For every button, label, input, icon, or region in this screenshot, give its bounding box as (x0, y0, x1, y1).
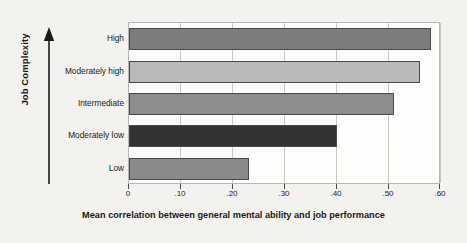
x-axis-tick-group: 0.10.20.30.40.50.60 (128, 184, 440, 200)
bar (129, 158, 249, 180)
x-axis-tick-label: .60 (434, 189, 445, 198)
bar (129, 93, 394, 115)
x-axis-tick-label: .40 (330, 189, 341, 198)
bar (129, 28, 431, 50)
category-label: High (58, 33, 124, 43)
x-axis-tick-label: 0 (126, 189, 130, 198)
x-axis-tick-label: .10 (174, 189, 185, 198)
y-axis-title: Job Complexity (19, 10, 30, 130)
x-axis-tick-label: .50 (382, 189, 393, 198)
bar-row (129, 93, 394, 115)
category-label: Moderately low (58, 130, 124, 140)
plot-area (128, 22, 440, 184)
x-axis-title: Mean correlation between general mental … (0, 210, 467, 220)
bar-row (129, 61, 420, 83)
category-label: Intermediate (58, 98, 124, 108)
gridline (440, 23, 441, 183)
x-axis-tick-label: .20 (226, 189, 237, 198)
category-label-group: HighModerately highIntermediateModeratel… (58, 22, 124, 184)
bar-row (129, 28, 431, 50)
bar-row (129, 125, 337, 147)
bar (129, 61, 420, 83)
category-label: Low (58, 163, 124, 173)
bar-chart-figure: Job Complexity HighModerately highInterm… (0, 0, 467, 243)
y-axis-up-arrow-icon (42, 26, 56, 186)
bar-row (129, 158, 249, 180)
category-label: Moderately high (58, 66, 124, 76)
bar (129, 125, 337, 147)
x-axis-tick-label: .30 (278, 189, 289, 198)
